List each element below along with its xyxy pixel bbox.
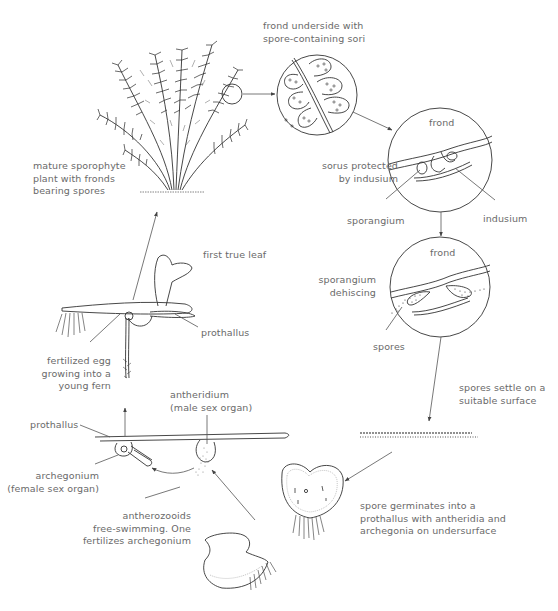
label-antherozooids: antherozooids free-swimming. One fertili… (60, 510, 191, 548)
fern-life-cycle-diagram: mature sporophyte plant with fronds bear… (0, 0, 558, 611)
label-first-true-leaf: first true leaf (203, 249, 266, 262)
label-sporangium-dehiscing: sporangium dehiscing (300, 274, 376, 299)
prothallus-side-illustration (204, 533, 276, 590)
label-spores-settle: spores settle on a suitable surface (459, 382, 546, 407)
label-sorus-indusium: sorus protected by indusium (298, 160, 398, 185)
label-archegonium: archegonium (female sex organ) (0, 470, 99, 495)
label-indusium: indusium (483, 213, 527, 226)
label-frond-inset-2: frond (430, 247, 455, 260)
label-antheridium: antheridium (male sex organ) (170, 389, 252, 414)
frond-underside-inset (277, 55, 357, 135)
label-prothallus-bottom: prothallus (30, 419, 78, 432)
label-sporangium: sporangium (347, 215, 405, 228)
germinated-prothallus-illustration (282, 464, 343, 540)
label-mature-sporophyte: mature sporophyte plant with fronds bear… (33, 160, 126, 198)
prothallus-with-sex-organs (80, 415, 289, 498)
label-fertilized-egg: fertilized egg growing into a young fern (20, 355, 111, 393)
label-frond-inset-1: frond (429, 117, 454, 130)
label-spores: spores (373, 341, 405, 354)
label-prothallus-top: prothallus (201, 327, 249, 340)
label-frond-underside: frond underside with spore-containing so… (263, 20, 365, 45)
settled-spores-surface (360, 433, 478, 437)
label-spore-germinates: spore germinates into a prothallus with … (360, 500, 506, 538)
